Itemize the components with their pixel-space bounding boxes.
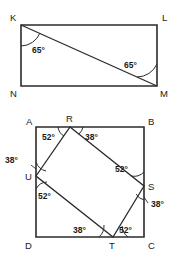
rectangle-diagram-canvas: K L N M 65° 65° — [0, 0, 175, 110]
vertex-label-S: S — [148, 181, 154, 192]
vertex-label-R: R — [66, 113, 73, 124]
square-diagram-canvas: A B C D R S T U 52° 38° 38° 52° 52° 38° … — [0, 110, 175, 263]
vertex-label-K: K — [10, 12, 17, 23]
angle-label-U-top: 38° — [5, 155, 18, 165]
figure-rectangle-with-diagonal: K L N M 65° 65° — [0, 0, 175, 110]
vertex-label-N: N — [10, 88, 17, 99]
vertex-label-D: D — [25, 240, 32, 251]
angle-label-S-bottom: 38° — [151, 199, 164, 209]
angle-label-T-left: 38° — [73, 225, 86, 235]
vertex-label-A: A — [26, 116, 33, 127]
angle-label-at-M: 65° — [124, 60, 137, 70]
vertex-label-C: C — [148, 240, 155, 251]
vertex-label-U: U — [25, 171, 32, 182]
inscribed-quadrilateral-RSTU — [36, 127, 144, 237]
angle-label-at-K: 65° — [32, 45, 45, 55]
vertex-label-B: B — [148, 116, 154, 127]
angle-label-T-right: 52° — [119, 225, 132, 235]
vertex-label-M: M — [160, 88, 168, 99]
figure-square-with-inscribed-quadrilateral: A B C D R S T U 52° 38° 38° 52° 52° 38° … — [0, 110, 175, 263]
angle-label-R-left: 52° — [42, 132, 55, 142]
vertex-label-T: T — [109, 240, 115, 251]
angle-arc-R-right — [79, 127, 83, 134]
vertex-label-L: L — [162, 12, 167, 23]
diagonal-KM — [21, 25, 157, 86]
angle-label-R-right: 38° — [85, 132, 98, 142]
angle-label-S-top: 52° — [115, 164, 128, 174]
angle-arc-S-top — [131, 172, 144, 176]
angle-arc-R-left — [58, 127, 64, 136]
angle-label-U-bottom: 52° — [38, 191, 51, 201]
angle-arc-at-M — [137, 64, 157, 77]
